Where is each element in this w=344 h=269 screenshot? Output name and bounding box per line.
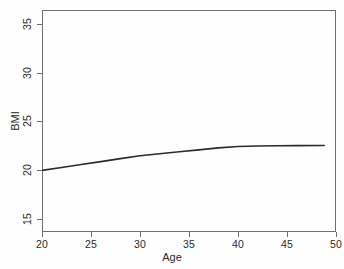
chart-figure: 20253035404550 1520253035 Age BMI <box>0 0 344 269</box>
bmi-curve <box>42 145 324 170</box>
x-tick-20 <box>42 232 43 237</box>
y-tick-30 <box>37 73 42 74</box>
x-tick-25 <box>91 232 92 237</box>
x-tick-label-40: 40 <box>232 238 244 250</box>
y-tick-35 <box>37 24 42 25</box>
x-tick-40 <box>238 232 239 237</box>
x-tick-30 <box>140 232 141 237</box>
y-tick-label-35: 35 <box>21 18 33 30</box>
x-tick-label-50: 50 <box>330 238 342 250</box>
y-tick-label-20: 20 <box>21 164 33 176</box>
x-tick-label-30: 30 <box>134 238 146 250</box>
plot-area <box>42 10 336 232</box>
x-tick-45 <box>287 232 288 237</box>
x-axis-label: Age <box>0 251 344 263</box>
y-tick-label-25: 25 <box>21 115 33 127</box>
x-tick-label-35: 35 <box>183 238 195 250</box>
y-tick-25 <box>37 121 42 122</box>
y-tick-20 <box>37 170 42 171</box>
x-tick-label-25: 25 <box>85 238 97 250</box>
y-tick-label-15: 15 <box>21 213 33 225</box>
y-tick-label-30: 30 <box>21 67 33 79</box>
x-tick-label-20: 20 <box>36 238 48 250</box>
y-axis-label: BMI <box>9 111 21 131</box>
x-tick-label-45: 45 <box>281 238 293 250</box>
y-tick-15 <box>37 219 42 220</box>
x-tick-50 <box>336 232 337 237</box>
x-tick-35 <box>189 232 190 237</box>
